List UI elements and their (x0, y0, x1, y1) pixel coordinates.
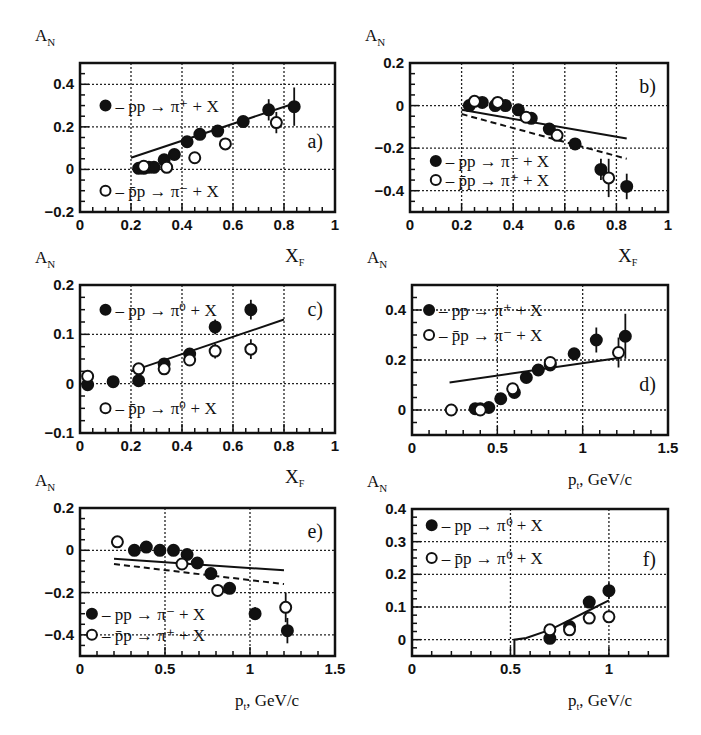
data-point (210, 321, 221, 332)
data-point (245, 344, 256, 355)
y-tick-label: −0.2 (44, 584, 74, 601)
y-tick-label: −0.2 (44, 203, 74, 220)
data-point (603, 611, 614, 622)
legend-filled-marker-icon (101, 101, 111, 111)
legend-entry: – p̄p → π⁰ + X (115, 399, 217, 418)
data-point (159, 363, 170, 374)
legend-open-marker-icon (431, 175, 441, 185)
data-point (245, 304, 256, 315)
x-tick-label: 0.6 (554, 216, 575, 233)
data-point (182, 136, 193, 147)
data-point (189, 152, 200, 163)
y-tick-label: 0.1 (53, 325, 74, 342)
legend-filled-marker-icon (431, 156, 441, 166)
x-tick-label: 0.8 (274, 437, 295, 454)
y-tick-label: 0.2 (53, 118, 74, 135)
x-tick-label: 0.5 (155, 660, 176, 677)
x-tick-label: 0 (406, 216, 414, 233)
y-tick-label: 0.4 (53, 75, 75, 92)
legend-open-marker-icon (101, 186, 111, 196)
legend-entry: – p̄p → π⁻ + X (115, 182, 219, 201)
model-curve (131, 320, 284, 372)
x-tick-label: 0.8 (606, 216, 627, 233)
legend-filled-marker-icon (87, 609, 97, 619)
y-tick-label: 0.2 (385, 565, 406, 582)
x-tick-label: 1 (578, 439, 586, 456)
x-tick-label: 0.4 (172, 216, 194, 233)
data-point (177, 559, 188, 570)
x-tick-label: 1.5 (325, 660, 346, 677)
panel-label: f) (643, 548, 656, 571)
legend-entry: – p̄p → π⁺ + X (445, 171, 549, 190)
data-point (224, 583, 235, 594)
x-tick-label: 1 (331, 437, 339, 454)
x-tick-label: 0 (76, 437, 84, 454)
data-point (194, 129, 205, 140)
data-point (570, 138, 581, 149)
x-axis-title: XF (285, 466, 305, 489)
y-tick-label: 0 (66, 375, 74, 392)
panel-label: a) (307, 130, 323, 153)
x-tick-label: 0.2 (451, 216, 472, 233)
y-axis-title: AN (35, 26, 55, 48)
data-point (161, 162, 172, 173)
y-tick-label: −0.2 (374, 139, 404, 156)
x-tick-label: 1.5 (658, 439, 679, 456)
data-point (603, 172, 614, 183)
legend-open-marker-icon (87, 630, 97, 640)
panel-label: b) (639, 75, 656, 98)
x-tick-label: 0.4 (172, 437, 194, 454)
x-axis-title: pt, GeV/c (235, 691, 300, 712)
data-point (621, 181, 632, 192)
y-tick-label: 0.1 (385, 598, 406, 615)
data-point (263, 104, 274, 115)
legend-entry: – pp → π⁰ + X (115, 301, 217, 320)
legend-entry: – p̄p → π⁻ + X (438, 326, 542, 345)
legend-open-marker-icon (427, 553, 437, 563)
data-point (544, 624, 555, 635)
x-tick-label: 0.2 (121, 437, 142, 454)
data-point (271, 117, 282, 128)
data-point (620, 331, 631, 342)
data-point (603, 585, 614, 596)
y-tick-label: 0.2 (385, 351, 406, 368)
panel-c: 00.20.40.60.81−0.100.10.2– pp → π⁰ + X– … (35, 248, 339, 489)
data-point (112, 536, 123, 547)
data-point (141, 542, 152, 553)
x-tick-label: 1 (664, 216, 672, 233)
legend-entry: – p̄p → π⁰ + X (441, 549, 543, 568)
x-tick-label: 0 (76, 660, 84, 677)
x-axis-title: pt, GeV/c (568, 470, 633, 491)
data-point (205, 568, 216, 579)
y-tick-label: −0.4 (44, 626, 74, 643)
data-point (133, 363, 144, 374)
panel-label: c) (307, 298, 323, 321)
data-point (212, 585, 223, 596)
x-tick-label: 0 (76, 216, 84, 233)
y-tick-label: 0 (396, 97, 404, 114)
data-point (495, 393, 506, 404)
data-point (169, 149, 180, 160)
y-axis-title: AN (367, 248, 387, 270)
panel-label: e) (307, 520, 323, 543)
x-axis-title: XF (618, 245, 638, 268)
x-tick-label: 0.5 (500, 660, 521, 677)
data-point (192, 557, 203, 568)
x-tick-label: 0.4 (503, 216, 525, 233)
data-point (569, 348, 580, 359)
legend-open-marker-icon (424, 330, 434, 340)
y-axis-title: AN (35, 248, 55, 270)
x-tick-label: 0.6 (223, 216, 244, 233)
y-tick-label: 0.3 (385, 533, 406, 550)
legend-entry: – pp → π⁺ + X (115, 97, 219, 116)
x-tick-label: 0 (408, 660, 416, 677)
panel-label: d) (639, 373, 656, 396)
data-point (591, 335, 602, 346)
panel-f: 00.5100.10.20.30.4– pp → π⁰ + X– p̄p → π… (367, 472, 668, 712)
data-point (584, 613, 595, 624)
data-point (238, 116, 249, 127)
data-point (129, 545, 140, 556)
y-tick-label: −0.4 (374, 182, 404, 199)
y-tick-label: 0 (66, 160, 74, 177)
legend-open-marker-icon (101, 403, 111, 413)
